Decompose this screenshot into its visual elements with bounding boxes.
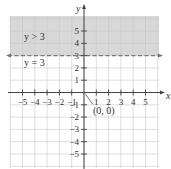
svg-text:−3: −3 [42,97,52,107]
svg-text:5: 5 [143,97,148,107]
origin-label: (0, 0) [93,105,115,117]
svg-text:4: 4 [131,97,136,107]
svg-text:−5: −5 [18,97,28,107]
svg-text:−2: −2 [69,112,79,122]
svg-text:−1: −1 [69,100,79,110]
svg-text:2: 2 [75,63,80,73]
svg-text:4: 4 [75,38,80,48]
svg-text:−5: −5 [69,149,79,159]
boundary-line-label: y = 3 [24,57,45,68]
svg-text:−3: −3 [69,124,79,134]
y-axis-label: y [75,3,81,14]
x-axis-label: x [165,90,171,101]
svg-text:1: 1 [75,75,80,85]
coordinate-plane: −5−4−3−2−112345−5−4−3−2−112345 x y y > 3… [0,0,171,169]
region-label-inequality: y > 3 [24,31,45,42]
svg-text:3: 3 [119,97,124,107]
svg-text:−4: −4 [69,137,79,147]
svg-text:−4: −4 [30,97,40,107]
inequality-graph: −5−4−3−2−112345−5−4−3−2−112345 x y y > 3… [0,0,171,169]
svg-text:3: 3 [75,51,80,61]
svg-text:−2: −2 [55,97,65,107]
svg-text:5: 5 [75,26,80,36]
origin-pointer-line [85,94,93,105]
